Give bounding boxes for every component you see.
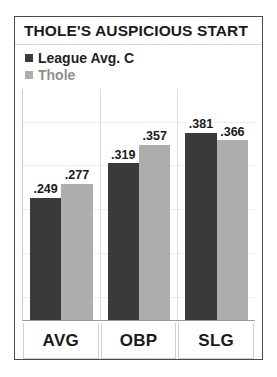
legend-label-league-avg: League Avg. C [38, 51, 134, 65]
plot-area: .249 .277 .319 .357 .381 [22, 89, 255, 359]
legend-item-thole: Thole [25, 67, 262, 83]
bar-value-label: .357 [142, 130, 168, 144]
bar-value-label: .366 [219, 126, 245, 140]
bar-league-avg-obp: .319 [108, 163, 139, 320]
chart-card: THOLE'S AUSPICIOUS START League Avg. C T… [14, 16, 263, 360]
chart-legend: League Avg. C Thole [15, 45, 262, 87]
bar-league-avg-avg: .249 [30, 198, 61, 320]
category-label-avg: AVG [43, 331, 79, 351]
title-bar: THOLE'S AUSPICIOUS START [15, 17, 262, 45]
legend-square-icon-league-avg [25, 54, 33, 62]
category-cell-obp: OBP [101, 323, 177, 359]
bar-league-avg-slg: .381 [185, 133, 216, 320]
bar-thole-avg: .277 [61, 184, 92, 320]
category-label-slg: SLG [198, 331, 234, 351]
bar-value-label: .249 [32, 183, 58, 197]
bar-group-slg: .381 .366 [177, 89, 255, 320]
plot-frame: .249 .277 .319 .357 .381 [22, 89, 255, 321]
page-title: THOLE'S AUSPICIOUS START [24, 23, 253, 39]
bar-value-label: .319 [110, 149, 136, 163]
bar-group-avg: .249 .277 [23, 89, 100, 320]
legend-square-icon-thole [25, 71, 33, 79]
legend-label-thole: Thole [38, 68, 75, 82]
bar-group-obp: .319 .357 [100, 89, 178, 320]
category-label-obp: OBP [120, 331, 158, 351]
category-cell-avg: AVG [23, 323, 99, 359]
bar-value-label: .277 [64, 169, 90, 183]
bar-thole-obp: .357 [139, 145, 170, 320]
bar-thole-slg: .366 [217, 140, 248, 320]
category-axis: AVG OBP SLG [22, 323, 255, 359]
bar-groups: .249 .277 .319 .357 .381 [23, 89, 255, 320]
category-cell-slg: SLG [178, 323, 254, 359]
legend-item-league-avg: League Avg. C [25, 50, 262, 66]
bar-value-label: .381 [188, 118, 214, 132]
